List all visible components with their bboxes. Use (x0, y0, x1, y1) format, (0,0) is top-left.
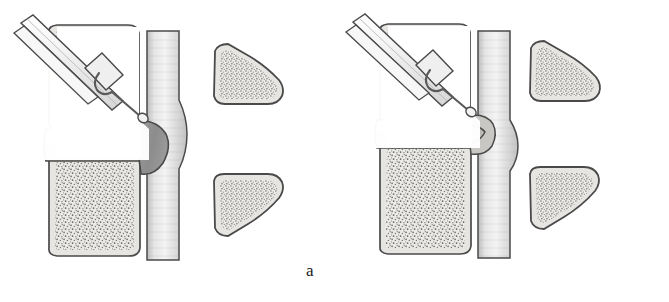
panel-a: a (0, 0, 334, 302)
panel-b: b (335, 0, 669, 302)
upper-spinous-process (530, 41, 600, 101)
lower-spinous-process (214, 174, 283, 236)
lower-vertebral-body (49, 156, 140, 256)
lower-vertebral-body (380, 142, 471, 254)
panel-a-caption: a (306, 262, 314, 279)
upper-spinous-process (214, 44, 283, 104)
panel-a-illustration (0, 0, 334, 302)
lower-spinous-process (530, 167, 599, 229)
panel-b-illustration (335, 0, 669, 302)
figure-container: a (0, 0, 669, 302)
